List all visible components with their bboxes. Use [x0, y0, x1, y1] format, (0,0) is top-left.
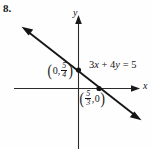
equation-equals-sign: = — [123, 59, 129, 70]
x-intercept-x-fraction: 5 3 — [85, 90, 91, 107]
fraction-numerator: 5 — [61, 62, 67, 70]
x-intercept-y-value: 0 — [95, 94, 100, 104]
fraction-denominator: 4 — [61, 71, 67, 79]
x-axis — [14, 85, 140, 92]
equation-variable-x: x — [94, 59, 99, 70]
y-axis — [75, 15, 82, 149]
y-intercept-y-fraction: 5 4 — [61, 62, 67, 79]
open-paren: ( — [48, 64, 52, 78]
coordinate-plane-svg — [0, 0, 152, 149]
equation-constant: 5 — [131, 59, 136, 70]
equation-plus-sign: + — [102, 59, 108, 70]
x-axis-arrowhead-icon — [131, 85, 140, 92]
open-paren: ( — [80, 92, 84, 106]
graph-figure: 8. y x 3x + 4y = 5 (0, 5 4 ) ( 5 3 ,0) — [0, 0, 152, 149]
close-paren: ) — [100, 92, 104, 106]
y-intercept-dot — [76, 67, 81, 72]
fraction-denominator: 3 — [85, 99, 91, 107]
x-intercept-label: ( 5 3 ,0) — [79, 90, 105, 107]
y-intercept-label: (0, 5 4 ) — [47, 62, 73, 79]
y-axis-label: y — [73, 8, 77, 18]
coordinate-separator: , — [58, 66, 61, 76]
equation-variable-y: y — [115, 59, 120, 70]
fraction-numerator: 5 — [85, 90, 91, 98]
problem-number: 8. — [3, 3, 11, 14]
equation-label: 3x + 4y = 5 — [89, 60, 136, 71]
x-axis-label: x — [143, 81, 147, 91]
close-paren: ) — [68, 64, 72, 78]
